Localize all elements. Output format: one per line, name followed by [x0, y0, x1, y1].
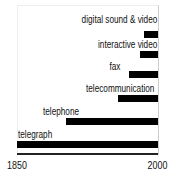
- label-telegraph: telegraph: [18, 129, 52, 140]
- bar-telegraph: [17, 141, 158, 148]
- label-telecommunication: telecommunication: [86, 83, 154, 94]
- label-fax: fax: [109, 61, 120, 72]
- label-digital-sound-video: digital sound & video: [81, 14, 157, 25]
- x-axis-line: [17, 153, 158, 155]
- bar-fax: [129, 71, 158, 78]
- label-telephone: telephone: [43, 106, 79, 117]
- bar-telephone: [66, 118, 158, 125]
- bar-telecommunication: [118, 95, 158, 102]
- bar-digital-sound-video: [144, 31, 158, 38]
- label-interactive-video: interactive video: [98, 39, 157, 50]
- bar-interactive-video: [140, 51, 158, 58]
- x-tick-1850: 1850: [7, 159, 27, 171]
- x-tick-2000: 2000: [147, 159, 167, 171]
